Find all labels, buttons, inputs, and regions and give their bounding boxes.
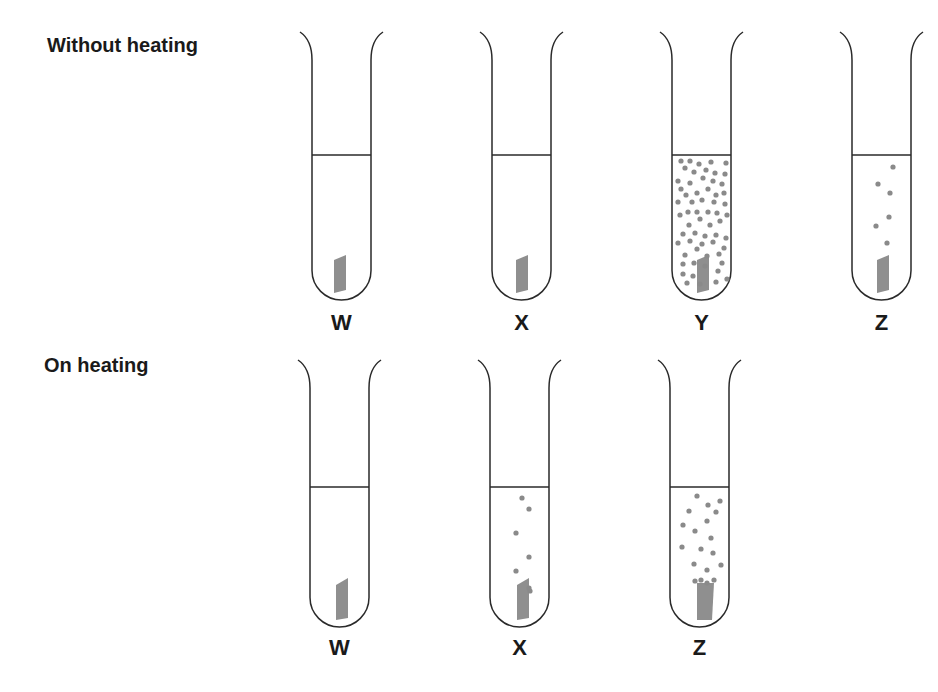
gas-bubble <box>687 158 692 163</box>
gas-bubble <box>719 181 724 186</box>
gas-bubble <box>723 160 728 165</box>
gas-bubble <box>675 240 680 245</box>
gas-bubble <box>696 161 701 166</box>
gas-bubble <box>705 502 710 507</box>
gas-bubble <box>705 186 710 191</box>
metal-strip <box>877 255 889 293</box>
gas-bubble <box>686 222 691 227</box>
test-tube-y-unheated: Y <box>660 32 743 335</box>
gas-bubble <box>680 271 685 276</box>
gas-bubble <box>724 212 729 217</box>
gas-bubble <box>712 170 717 175</box>
gas-bubble <box>705 209 710 214</box>
gas-bubble <box>704 580 709 585</box>
gas-bubble <box>700 175 705 180</box>
test-tube-z-heated: Z <box>658 360 741 660</box>
gas-bubble <box>526 506 531 511</box>
gas-bubble <box>890 164 895 169</box>
gas-bubble <box>527 588 532 593</box>
gas-bubble <box>692 578 697 583</box>
gas-bubble <box>703 167 708 172</box>
tube-label: X <box>512 635 527 660</box>
gas-bubble <box>884 240 889 245</box>
gas-bubble <box>704 253 709 258</box>
gas-bubble <box>692 528 697 533</box>
gas-bubble <box>697 281 702 286</box>
gas-bubble <box>717 218 722 223</box>
gas-bubble <box>679 544 684 549</box>
test-tube-w-unheated: W <box>300 32 383 335</box>
gas-bubble <box>715 268 720 273</box>
metal-strip <box>697 255 709 293</box>
gas-bubble <box>687 238 692 243</box>
gas-bubble <box>711 577 716 582</box>
tube-label: W <box>329 635 350 660</box>
gas-bubble <box>685 209 690 214</box>
gas-bubble <box>692 230 697 235</box>
gas-bubble <box>702 233 707 238</box>
gas-bubble <box>713 509 718 514</box>
test-tube-x-heated: X <box>478 360 561 660</box>
gas-bubble <box>704 567 709 572</box>
gas-bubble <box>708 159 713 164</box>
gas-bubble <box>719 260 724 265</box>
gas-bubble <box>721 190 726 195</box>
tube-label: X <box>514 310 529 335</box>
gas-bubble <box>710 550 715 555</box>
gas-bubble <box>675 178 680 183</box>
metal-strip <box>336 578 348 620</box>
gas-bubble <box>713 232 718 237</box>
gas-bubble <box>724 276 729 281</box>
gas-bubble <box>722 171 727 176</box>
gas-bubble <box>887 190 892 195</box>
gas-bubble <box>694 190 699 195</box>
metal-strip <box>517 578 529 620</box>
tube-label: Z <box>693 635 706 660</box>
test-tube-z-unheated: Z <box>840 32 923 335</box>
gas-bubble <box>689 199 694 204</box>
gas-bubble <box>680 231 685 236</box>
gas-bubble <box>691 169 696 174</box>
gas-bubble <box>886 214 891 219</box>
gas-bubble <box>694 209 699 214</box>
gas-bubble <box>711 199 716 204</box>
metal-strip <box>516 255 528 293</box>
gas-bubble <box>698 577 703 582</box>
gas-bubble <box>704 518 709 523</box>
gas-bubble <box>713 279 718 284</box>
gas-bubble <box>686 508 691 513</box>
gas-bubble <box>691 260 696 265</box>
gas-bubble <box>675 199 680 204</box>
gas-bubble <box>710 239 715 244</box>
gas-bubble <box>697 216 702 221</box>
gas-bubble <box>682 165 687 170</box>
gas-bubble <box>723 235 728 240</box>
metal-strip <box>334 255 346 293</box>
gas-bubble <box>873 223 878 228</box>
gas-bubble <box>526 554 531 559</box>
gas-bubble <box>694 493 699 498</box>
gas-bubble <box>687 180 692 185</box>
gas-bubble <box>513 568 518 573</box>
gas-bubble <box>680 261 685 266</box>
gas-bubble <box>702 263 707 268</box>
gas-bubble <box>513 530 518 535</box>
gas-bubble <box>707 222 712 227</box>
gas-bubble <box>716 251 721 256</box>
gas-bubble <box>690 273 695 278</box>
gas-bubble <box>699 241 704 246</box>
tube-label: Y <box>694 310 709 335</box>
gas-bubble <box>678 158 683 163</box>
gas-bubble <box>708 535 713 540</box>
test-tube-diagram: WXYZWXZ <box>0 0 938 692</box>
gas-bubble <box>684 280 689 285</box>
gas-bubble <box>680 522 685 527</box>
metal-strip <box>697 583 714 620</box>
gas-bubble <box>682 252 687 257</box>
gas-bubble <box>875 181 880 186</box>
gas-bubble <box>698 546 703 551</box>
gas-bubble <box>718 562 723 567</box>
gas-bubble <box>699 197 704 202</box>
gas-bubble <box>710 178 715 183</box>
gas-bubble <box>721 245 726 250</box>
